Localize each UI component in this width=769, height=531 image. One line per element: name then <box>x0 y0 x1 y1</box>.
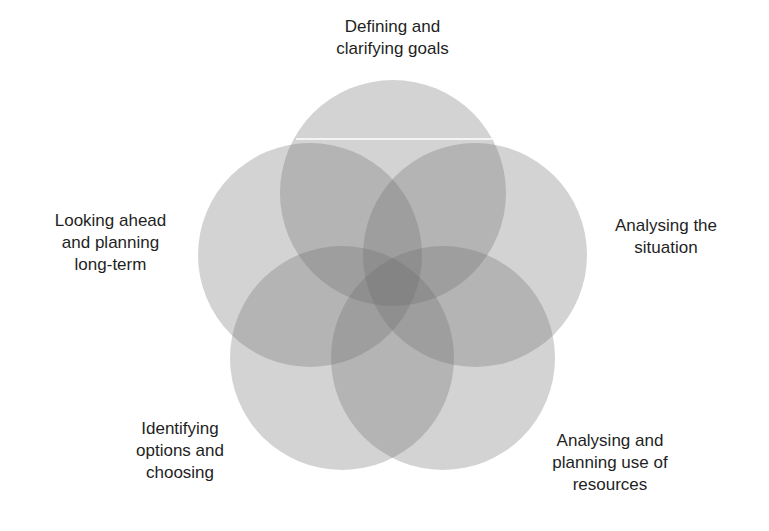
label-defining-goals: Defining and clarifying goals <box>300 16 485 60</box>
label-identifying-options: Identifying options and choosing <box>110 418 250 484</box>
circle-long-term <box>198 143 422 367</box>
venn-diagram: Defining and clarifying goals Analysing … <box>0 0 769 531</box>
label-analysing-situation: Analysing the situation <box>586 215 746 259</box>
scan-artifact-line <box>296 138 492 140</box>
label-looking-ahead: Looking ahead and planning long-term <box>28 210 193 276</box>
label-planning-resources: Analysing and planning use of resources <box>530 430 690 496</box>
